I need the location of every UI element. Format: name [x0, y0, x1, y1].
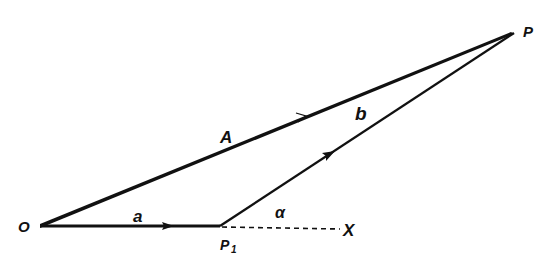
- vector-b-line: [220, 33, 514, 226]
- label-b: b: [355, 103, 367, 124]
- vector-diagram: O a P 1 α X A b P: [0, 0, 560, 264]
- vector-A-line: [40, 32, 514, 228]
- label-X: X: [342, 221, 356, 240]
- label-P1-subscript: 1: [231, 244, 237, 255]
- label-A: A: [219, 128, 232, 147]
- label-O: O: [18, 218, 30, 235]
- label-P: P: [523, 23, 534, 40]
- label-a: a: [133, 207, 142, 226]
- vector-b-arrowhead: [322, 151, 335, 161]
- extension-dashed-line: [222, 227, 340, 229]
- label-P1: P: [220, 237, 230, 253]
- label-alpha: α: [275, 204, 286, 221]
